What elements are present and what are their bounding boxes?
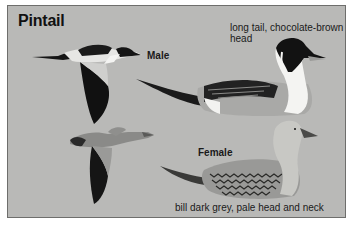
- male-note: long tail, chocolate-brown head: [230, 22, 345, 44]
- male-flying-illustration: [32, 45, 142, 124]
- female-swimming-illustration: [160, 121, 318, 199]
- female-flying-illustration: [70, 127, 154, 204]
- male-label: Male: [147, 50, 169, 61]
- female-note: bill dark grey, pale head and neck: [175, 202, 324, 213]
- female-label: Female: [198, 147, 232, 158]
- field-guide-plate: Pintail: [7, 5, 346, 218]
